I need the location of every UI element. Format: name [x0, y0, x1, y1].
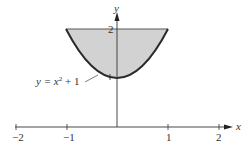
- tick-label-1: 1: [166, 131, 172, 143]
- tick-label-neg2: −2: [12, 131, 24, 143]
- tick-label-neg1: −1: [63, 131, 75, 143]
- figure: −2 −1 1 2 x y 2 y = x2 + 1: [0, 0, 245, 152]
- label-leader: [85, 75, 98, 82]
- x-axis-label: x: [235, 120, 241, 132]
- plot: −2 −1 1 2 x y 2 y = x2 + 1: [0, 0, 245, 152]
- x-axis-arrow-icon: [224, 125, 233, 130]
- y-axis-label: y: [113, 2, 119, 14]
- curve-label: y = x2 + 1: [35, 75, 79, 87]
- tick-label-2: 2: [216, 131, 222, 143]
- ytick-label-2: 2: [108, 23, 114, 35]
